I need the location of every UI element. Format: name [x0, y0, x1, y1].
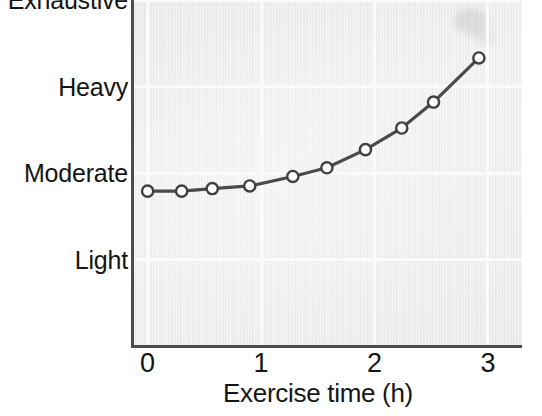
data-series-layer	[134, 0, 522, 346]
x-axis-title: Exercise time (h)	[0, 378, 542, 409]
x-tick-label-0: 0	[118, 348, 178, 379]
data-point-marker	[244, 180, 255, 191]
data-point-marker	[142, 186, 153, 197]
x-tick-label-1: 1	[231, 348, 291, 379]
chart-figure: LightModerateHeavyExhaustive 0123 Exerci…	[0, 0, 542, 416]
x-tick-label-2: 2	[345, 348, 405, 379]
data-point-marker	[428, 96, 439, 107]
data-point-marker	[473, 52, 484, 63]
data-point-marker	[207, 183, 218, 194]
x-tick-label-3: 3	[458, 348, 518, 379]
data-point-marker	[396, 122, 407, 133]
y-tick-label-heavy: Heavy	[0, 72, 128, 101]
data-point-marker	[176, 186, 187, 197]
data-point-marker	[287, 171, 298, 182]
data-point-marker	[321, 162, 332, 173]
x-axis-title-text: Exercise time (h)	[223, 378, 413, 409]
data-point-marker	[360, 144, 371, 155]
y-tick-label-light: Light	[0, 245, 128, 274]
y-tick-label-moderate: Moderate	[0, 159, 128, 188]
y-tick-label-exhaustive: Exhaustive	[0, 0, 128, 15]
series-line-0	[148, 58, 479, 191]
